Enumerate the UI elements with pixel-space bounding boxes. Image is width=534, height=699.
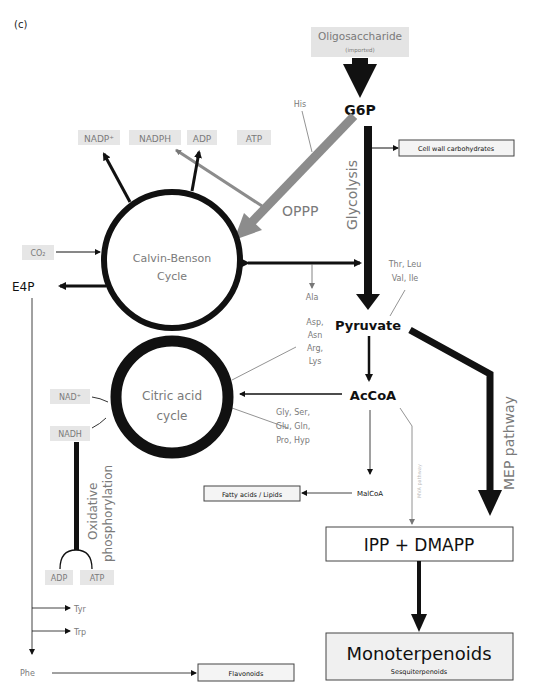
glycolysis-label: Glycolysis: [344, 160, 360, 230]
nadh-label: NADH: [58, 430, 82, 439]
asp-label: Asp,: [306, 318, 323, 327]
imported-label: (imported): [345, 47, 374, 54]
nadp-plus-label: NADP⁺: [84, 134, 114, 144]
glu-label: Glu, Gln,: [276, 422, 311, 431]
mva-pathway-label: MVA pathway: [416, 464, 423, 498]
adp-arrow: [192, 152, 199, 191]
e4p-label: E4P: [12, 280, 34, 294]
oppp-label: OPPP: [282, 203, 318, 219]
adp-top-label: ADP: [193, 134, 212, 144]
oxphos-bar: [74, 442, 79, 550]
nadph-label: NADPH: [139, 134, 171, 144]
thr-line: [390, 290, 405, 316]
thr-leu-label: Thr, Leu: [388, 260, 422, 269]
atp-top-label: ATP: [246, 134, 263, 144]
his-line: [302, 111, 312, 152]
nadp-arrow: [104, 154, 130, 202]
ipp-mono-arrowhead-icon: [411, 614, 427, 632]
mep-pathway-label: MEP pathway: [501, 396, 517, 490]
phe-label: Phe: [20, 669, 35, 678]
mva-pathway-arrow: [400, 408, 412, 524]
panel-label: (c): [14, 19, 27, 30]
glycolysis-arrowhead-icon: [356, 294, 380, 310]
nad-line: [92, 397, 108, 402]
oxphos-label-line2: phosphorylation: [101, 465, 115, 562]
citric-label-line1: Citric acid: [142, 389, 202, 403]
adp-bottom-label: ADP: [51, 574, 68, 583]
monoterpenoids-label: Monoterpenoids: [346, 643, 491, 664]
tyr-label: Tyr: [73, 605, 86, 614]
nad-plus-label: NAD⁺: [59, 393, 81, 402]
ala-label: Ala: [306, 293, 319, 302]
sesquiterpenoids-label: Sesquiterpenoids: [391, 668, 448, 676]
trp-label: Trp: [73, 628, 86, 637]
asn-label: Asn: [308, 331, 323, 340]
top-cofactors: NADP⁺ NADPH ADP ATP: [78, 130, 271, 145]
oligosaccharide-node: Oligosaccharide (imported): [311, 27, 409, 57]
mep-pathway-arrow: [410, 330, 490, 492]
cell-wall-label: Cell wall carbohydrates: [418, 145, 495, 153]
citric-label-line2: cycle: [156, 409, 187, 423]
fatty-acids-label: Fatty acids / Lipids: [222, 491, 283, 499]
malcoa-label: MalCoA: [357, 490, 383, 498]
pyruvate-label: Pyruvate: [335, 318, 401, 333]
mep-arrowhead-icon: [478, 490, 502, 516]
arg-label: Arg,: [307, 344, 323, 353]
metabolic-pathway-diagram: (c) Oligosaccharide (imported) G6P Glyco…: [0, 0, 534, 699]
gly-label: Gly, Ser,: [276, 408, 310, 417]
his-label: His: [294, 100, 306, 109]
calvin-label-line1: Calvin-Benson: [133, 252, 211, 265]
oxphos-label-line1: Oxidative: [86, 483, 100, 540]
atp-bottom-label: ATP: [90, 574, 105, 583]
glycolysis-arrow: [364, 126, 372, 298]
import-arrow-icon: [343, 58, 377, 98]
oxphos-arc: [60, 550, 92, 569]
flavonoids-label: Flavonoids: [229, 670, 264, 678]
lys-label: Lys: [309, 357, 322, 366]
accoa-label: AcCoA: [350, 388, 396, 403]
co2-label: CO₂: [30, 249, 45, 258]
ipp-dmapp-label: IPP + DMAPP: [364, 535, 474, 555]
nadh-line: [92, 418, 106, 428]
val-ile-label: Val, Ile: [392, 274, 419, 283]
calvin-label-line2: Cycle: [157, 270, 187, 283]
pro-label: Pro, Hyp: [276, 436, 310, 445]
asp-line: [232, 347, 296, 380]
oligosaccharide-label: Oligosaccharide: [318, 30, 402, 42]
